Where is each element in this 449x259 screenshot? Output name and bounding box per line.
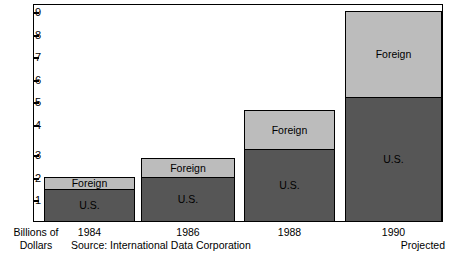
x-axis-label-1988: 1988 <box>244 226 335 238</box>
bar-segment-us-1984[interactable]: U.S. <box>44 190 135 222</box>
x-axis-label-1984: 1984 <box>44 226 135 238</box>
x-axis-label-1990: 1990 <box>345 226 442 238</box>
bar-segment-us-1990[interactable]: U.S. <box>345 98 442 222</box>
bars-layer: Foreign U.S. Foreign U.S. Foreign U.S. <box>0 0 449 259</box>
bar-segment-label-us: U.S. <box>178 194 198 205</box>
y-axis-title-line2: Dollars <box>2 239 70 252</box>
chart-screenshot: 9 8 7 6 5 4 3 2 1 Foreign U.S. <box>0 0 449 259</box>
bar-segment-foreign-1990[interactable]: Foreign <box>345 11 442 98</box>
bar-segment-label-foreign: Foreign <box>376 49 412 60</box>
projected-note: Projected <box>401 239 445 251</box>
bar-segment-foreign-1986[interactable]: Foreign <box>141 158 235 178</box>
bar-group-1990[interactable]: Foreign U.S. <box>345 11 442 222</box>
bar-segment-foreign-1984[interactable]: Foreign <box>44 177 135 190</box>
bar-segment-label-foreign: Foreign <box>170 163 206 174</box>
bar-segment-label-us: U.S. <box>279 180 299 191</box>
bar-group-1984[interactable]: Foreign U.S. <box>44 177 135 222</box>
bar-segment-us-1988[interactable]: U.S. <box>244 150 335 222</box>
bar-segment-label-us: U.S. <box>79 200 99 211</box>
bar-segment-foreign-1988[interactable]: Foreign <box>244 110 335 150</box>
bar-segment-us-1986[interactable]: U.S. <box>141 178 235 222</box>
bar-segment-label-foreign: Foreign <box>72 178 108 189</box>
bar-group-1986[interactable]: Foreign U.S. <box>141 158 235 222</box>
x-axis-label-1986: 1986 <box>141 226 235 238</box>
bar-segment-label-us: U.S. <box>383 154 403 165</box>
bar-segment-label-foreign: Foreign <box>272 125 308 136</box>
bar-group-1988[interactable]: Foreign U.S. <box>244 110 335 222</box>
source-note: Source: International Data Corporation <box>71 239 251 251</box>
